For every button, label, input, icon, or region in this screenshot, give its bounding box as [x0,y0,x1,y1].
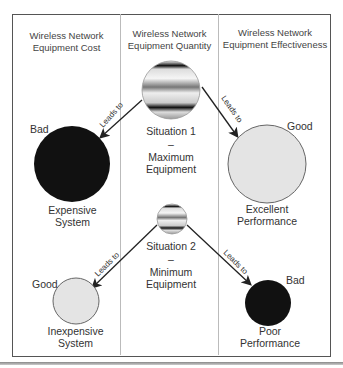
rating-good: Good [287,120,313,132]
outcome-line: Excellent [217,203,317,215]
situation-dash: – [121,138,221,150]
excellent-performance-label: Excellent Performance [217,203,317,227]
inexpensive-system-label: Inexpensive System [23,325,128,349]
situation1-cable-icon [142,61,200,119]
outcome-line: Performance [217,215,317,227]
outcome-line: System [23,337,128,349]
inexpensive-good-circle [53,278,99,324]
excellent-good-circle [228,125,306,203]
outcome-line: Poor [220,325,320,337]
expensive-bad-circle [34,126,110,202]
poor-bad-circle [245,280,291,326]
rating-bad: Bad [286,274,305,286]
situation-dash: – [121,253,221,265]
arrow-label-4: Leads to [222,248,250,276]
page-bottom-rule [0,362,343,365]
rating-bad: Bad [30,123,49,135]
situation-line: Equipment [121,163,221,175]
situation-title: Situation 2 [121,240,221,252]
outcome-line: System [20,216,125,228]
situation2-label: Situation 2 – Minimum Equipment [121,240,221,290]
situation-line: Minimum [121,266,221,278]
outcome-line: Inexpensive [23,325,128,337]
poor-performance-label: Poor Performance [220,325,320,349]
outcome-line: Expensive [20,204,125,216]
situation-title: Situation 1 [121,125,221,137]
rating-good: Good [32,278,58,290]
outcome-line: Performance [220,337,320,349]
situation-line: Maximum [121,151,221,163]
expensive-system-label: Expensive System [20,204,125,228]
situation-line: Equipment [121,278,221,290]
diagram-graphics: Leads to Leads to Leads to Leads to [0,0,343,368]
situation1-label: Situation 1 – Maximum Equipment [121,125,221,175]
situation2-cable-icon [157,204,187,234]
arrow-label-2: Leads to [219,94,244,125]
